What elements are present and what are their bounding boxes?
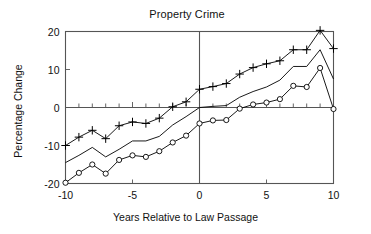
data-point-circle — [157, 149, 162, 154]
data-point-plus — [128, 118, 136, 126]
data-point-plus — [262, 60, 270, 68]
x-tick-label: -5 — [128, 189, 137, 201]
data-point-circle — [117, 157, 122, 162]
x-tick-label: -10 — [58, 189, 73, 201]
y-tick-label: 0 — [54, 102, 60, 114]
data-point-circle — [170, 140, 175, 145]
data-point-plus — [236, 70, 244, 78]
data-point-circle — [76, 170, 81, 175]
data-point-circle — [90, 162, 95, 167]
data-point-circle — [331, 106, 336, 111]
data-point-plus — [303, 46, 311, 54]
x-tick-label: 5 — [264, 189, 270, 201]
data-point-plus — [88, 126, 96, 134]
data-point-circle — [197, 121, 202, 126]
data-point-plus — [209, 82, 217, 90]
data-point-circle — [210, 118, 215, 123]
y-tick-label: -10 — [44, 140, 59, 152]
data-point-plus — [75, 133, 83, 141]
data-point-circle — [304, 84, 309, 89]
data-point-circle — [103, 171, 108, 176]
data-point-plus — [329, 44, 337, 52]
data-point-plus — [142, 119, 150, 127]
data-point-circle — [184, 133, 189, 138]
data-point-circle — [130, 153, 135, 158]
x-tick-label: 10 — [328, 189, 340, 201]
data-point-plus — [222, 79, 230, 87]
data-point-circle — [143, 154, 148, 159]
data-point-circle — [63, 180, 68, 185]
y-tick-label: 10 — [48, 64, 60, 76]
chart-figure: Property Crime Percentage Change Years R… — [0, 0, 371, 234]
data-point-plus — [249, 63, 257, 71]
data-point-plus — [61, 141, 69, 149]
data-point-plus — [316, 26, 324, 34]
data-point-circle — [237, 106, 242, 111]
data-point-circle — [224, 117, 229, 122]
plot-area: -10-50510-20-1001020 — [0, 0, 371, 234]
y-tick-label: -20 — [44, 178, 59, 190]
data-point-circle — [291, 83, 296, 88]
y-tick-label: 20 — [48, 26, 60, 38]
data-point-circle — [318, 65, 323, 70]
data-point-circle — [264, 100, 269, 105]
data-point-circle — [277, 97, 282, 102]
data-point-circle — [251, 102, 256, 107]
x-tick-label: 0 — [197, 189, 203, 201]
